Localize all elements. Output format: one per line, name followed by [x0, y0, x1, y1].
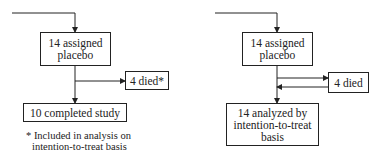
left-assigned-line1: 14 assigned	[49, 37, 103, 49]
left-completed-box: 10 completed study	[23, 103, 127, 122]
left-assigned-line2: placebo	[58, 49, 94, 61]
right-analyzed-line2: intention-to-treat	[234, 119, 312, 131]
left-footnote: * Included in analysis on intention-to-t…	[26, 130, 131, 152]
right-assigned-line1: 14 assigned	[251, 37, 305, 49]
right-assigned-box: 14 assigned placebo	[242, 32, 313, 66]
right-died-label: 4 died	[334, 77, 362, 89]
footnote-line1: * Included in analysis on	[26, 130, 131, 141]
right-assigned-line2: placebo	[260, 49, 296, 61]
left-assigned-box: 14 assigned placebo	[40, 32, 111, 66]
right-died-box: 4 died	[328, 72, 369, 93]
left-died-label: 4 died*	[130, 75, 164, 87]
right-analyzed-line3: basis	[261, 131, 284, 143]
footnote-line2: intention-to-treat basis	[26, 141, 131, 152]
left-completed-label: 10 completed study	[30, 107, 120, 119]
right-analyzed-box: 14 analyzed by intention-to-treat basis	[226, 103, 319, 146]
left-died-box: 4 died*	[125, 71, 169, 90]
right-analyzed-line1: 14 analyzed by	[238, 107, 308, 119]
